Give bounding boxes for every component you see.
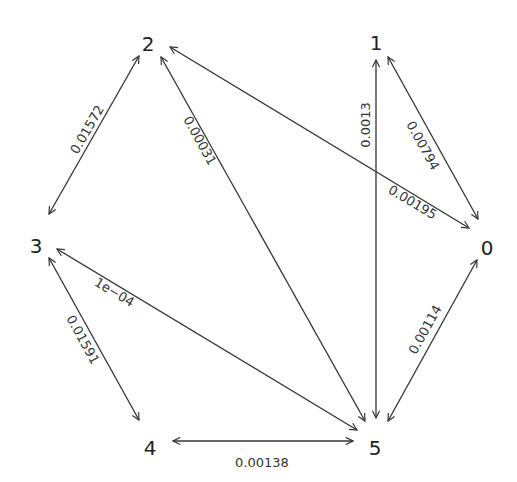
node-0: 0 [481,236,494,260]
edge-weight-label: 0.01591 [63,312,102,366]
edge-weight-label: 0.0013 [358,102,373,148]
edge-0-5 [388,260,477,421]
graph-canvas: 0.015720.000310.001950.00130.007940.0011… [0,0,517,482]
edge-weight-label: 0.00138 [235,455,289,470]
edge-weight-label: 1e−04 [92,274,137,309]
edge-2-5 [161,57,365,421]
node-3: 3 [30,234,43,258]
edge-weight-label: 0.00195 [386,182,440,223]
edge-labels-group: 0.015720.000310.001950.00130.007940.0011… [63,102,444,469]
node-2: 2 [142,32,155,56]
node-4: 4 [144,436,157,460]
edge-2-3 [49,56,139,214]
edges-group [49,47,478,441]
node-1: 1 [370,31,383,55]
edge-weight-label: 0.01572 [67,102,107,156]
nodes-group: 012345 [30,31,494,460]
edge-weight-label: 0.00031 [180,113,219,167]
node-5: 5 [369,436,382,460]
